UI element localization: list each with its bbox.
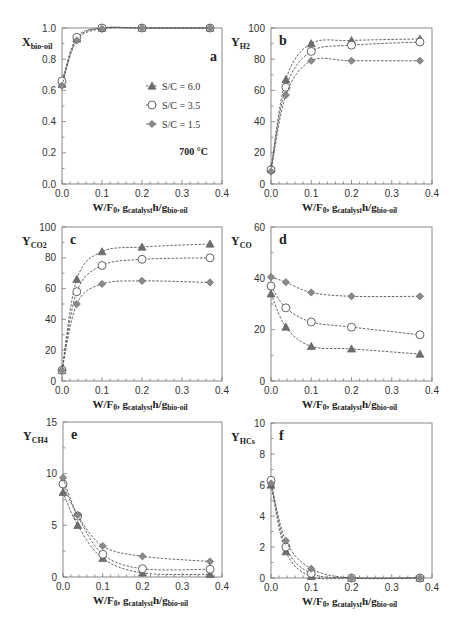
series-triangle: [267, 290, 424, 358]
x-tick-label: 0.2: [135, 385, 149, 396]
x-tick-label: 0.3: [385, 188, 399, 199]
data-point-circle: [416, 331, 424, 339]
x-tick-label: 0.2: [135, 188, 149, 199]
plot-frame: [271, 28, 432, 184]
x-tick-label: 0.4: [215, 581, 229, 592]
data-point-diamond: [139, 553, 146, 560]
y-tick-label: 5: [51, 520, 57, 531]
data-point-triangle: [416, 350, 424, 357]
x-tick-label: 0.2: [345, 188, 359, 199]
x-tick-label: 0.4: [425, 188, 439, 199]
x-tick-label: 0.3: [385, 385, 399, 396]
data-point-diamond: [308, 289, 315, 296]
x-tick-label: 0.1: [96, 581, 110, 592]
y-tick-label: 40: [254, 273, 266, 284]
y-tick-label: 0: [51, 572, 57, 583]
panel-a: 0.00.10.20.30.40.00.20.40.60.81.0Xbio-oi…: [22, 23, 229, 216]
x-tick-label: 0.1: [304, 582, 318, 593]
series-triangle: [267, 481, 424, 581]
y-tick-label: 60: [254, 85, 266, 96]
panel-letter: f: [279, 428, 284, 443]
x-tick-label: 0.0: [264, 385, 278, 396]
data-point-triangle: [138, 243, 146, 250]
series-triangle: [267, 35, 424, 172]
y-tick-label: 40: [45, 314, 57, 325]
y-tick-label: 2: [259, 542, 265, 553]
x-tick-label: 0.3: [175, 385, 189, 396]
y-tick-label: 100: [39, 222, 56, 233]
data-point-diamond: [206, 279, 213, 286]
x-tick-label: 0.0: [55, 188, 69, 199]
data-point-diamond: [98, 280, 105, 287]
x-axis-label: W/F0, gcatalysth/gbio-oil: [92, 398, 187, 412]
data-point-circle: [416, 38, 424, 46]
data-point-triangle: [59, 488, 67, 495]
legend: S/C = 6.0S/C = 3.5S/C = 1.5: [146, 81, 200, 130]
data-point-circle: [139, 565, 147, 573]
data-point-triangle: [307, 342, 315, 349]
series-circle: [58, 24, 214, 85]
data-point-circle: [138, 255, 146, 263]
panel-f: 0.00.10.20.30.40246810YHCsW/F0, gcatalys…: [231, 418, 439, 610]
panel-letter: e: [71, 427, 77, 442]
data-point-diamond: [348, 293, 355, 300]
x-axis-label: W/F0, gcatalysth/gbio-oil: [302, 398, 397, 412]
series-circle: [267, 476, 424, 582]
series-line: [271, 294, 420, 354]
y-tick-label: 0: [259, 376, 265, 387]
x-tick-label: 0.4: [215, 188, 229, 199]
x-axis-label: W/F0, gcatalysth/gbio-oil: [302, 201, 397, 215]
x-tick-label: 0.2: [345, 582, 359, 593]
series-line: [62, 244, 210, 370]
data-point-circle: [348, 41, 356, 49]
data-point-circle: [282, 304, 290, 312]
plot-frame: [271, 227, 432, 381]
panel-b: 0.00.10.20.30.4020406080100YH2W/F0, gcat…: [231, 23, 439, 216]
legend-marker-diamond: [148, 120, 155, 127]
series-line: [62, 27, 210, 81]
series-line: [63, 492, 210, 574]
data-point-diamond: [416, 57, 423, 64]
y-tick-label: 0.6: [42, 85, 56, 96]
y-tick-label: 40: [254, 116, 266, 127]
data-point-circle: [307, 47, 315, 55]
data-point-diamond: [282, 537, 289, 544]
series-line: [62, 27, 210, 84]
y-axis-label: YCO2: [22, 234, 47, 250]
x-tick-label: 0.2: [136, 581, 150, 592]
data-point-triangle: [282, 323, 290, 330]
y-tick-label: 80: [45, 252, 57, 263]
y-axis-label: YCO: [231, 234, 252, 250]
data-point-diamond: [348, 57, 355, 64]
y-tick-label: 60: [254, 222, 266, 233]
series-line: [271, 39, 420, 168]
data-point-triangle: [348, 345, 356, 352]
x-tick-label: 0.4: [425, 385, 439, 396]
y-tick-label: 0.8: [42, 54, 56, 65]
y-axis-label: Xbio-oil: [22, 35, 53, 51]
x-tick-label: 0.0: [56, 581, 70, 592]
data-point-triangle: [307, 40, 315, 47]
x-tick-label: 0.2: [345, 385, 359, 396]
data-point-diamond: [267, 273, 274, 280]
panel-letter: a: [210, 49, 217, 64]
data-point-diamond: [308, 57, 315, 64]
legend-label: S/C = 3.5: [162, 100, 200, 111]
panel-e: 0.00.10.20.30.4051015YCH4W/F0, gcatalyst…: [23, 417, 229, 609]
figure-canvas: 0.00.10.20.30.40.00.20.40.60.81.0Xbio-oi…: [0, 0, 463, 627]
series-diamond: [59, 474, 213, 565]
series-line: [63, 478, 210, 562]
x-tick-label: 0.1: [95, 385, 109, 396]
panel-letter: d: [279, 232, 287, 247]
y-tick-label: 10: [46, 468, 58, 479]
y-tick-label: 0.2: [42, 147, 56, 158]
legend-marker-circle: [148, 101, 156, 109]
data-point-triangle: [206, 240, 214, 247]
series-circle: [267, 38, 424, 174]
series-line: [271, 483, 420, 578]
x-tick-label: 0.4: [425, 582, 439, 593]
y-tick-label: 15: [46, 417, 58, 428]
data-point-circle: [206, 254, 214, 262]
panel-d: 0.00.10.20.30.40204060YCOW/F0, gcatalyst…: [231, 222, 439, 413]
data-point-circle: [98, 262, 106, 270]
